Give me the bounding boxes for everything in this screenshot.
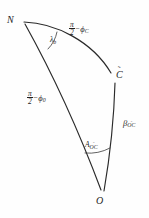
fraction-pi-over-2-o: π 2 — [27, 90, 33, 107]
angle-label-lambda-b: λb — [50, 36, 56, 44]
fraction-numerator-pi-c: π — [69, 21, 75, 29]
side-label-beta-OC: β˜OC — [123, 119, 135, 128]
vertex-label-N: N — [7, 15, 14, 25]
side-label-pi-over-2-minus-phi-0: π 2 −ϕ0 — [27, 90, 46, 107]
angle-subscript-b: b — [53, 39, 56, 45]
edge-Ctilde-to-O — [104, 83, 115, 191]
edge-N-to-O — [25, 24, 101, 190]
fraction-denominator-2-c: 2 — [69, 28, 75, 37]
subscript-tilde-accent-icon: ˜ — [93, 141, 95, 146]
vertex-label-O: O — [96, 196, 103, 206]
angle-label-A-OC: A˜OC — [85, 141, 98, 149]
spherical-triangle-figure: N ˜ C O λb A˜OC β˜OC π 2 −ϕC π 2 −ϕ0 — [0, 0, 149, 218]
side-subscript-OC-tilde: ˜OC — [127, 123, 135, 129]
term-subscript-C: C — [85, 28, 89, 34]
side-label-pi-over-2-minus-phi-C: π 2 −ϕC — [69, 21, 89, 38]
angle-subscript-OC-tilde: ˜OC — [90, 145, 98, 151]
fraction-pi-over-2-c: π 2 — [69, 21, 75, 38]
fraction-numerator-pi-o: π — [27, 90, 33, 98]
term-subscript-0: 0 — [43, 97, 46, 103]
vertex-label-C-tilde: ˜ C — [116, 70, 123, 80]
fraction-denominator-2-o: 2 — [27, 97, 33, 106]
side-subscript-tilde-accent-icon: ˜ — [130, 120, 132, 125]
tilde-accent-icon: ˜ — [118, 65, 121, 74]
